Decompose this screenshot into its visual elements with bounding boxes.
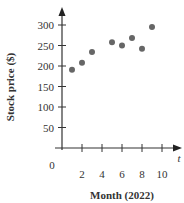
data-point xyxy=(149,24,155,30)
x-axis xyxy=(55,145,182,152)
y-tick-label: 100 xyxy=(38,101,55,113)
data-point xyxy=(79,60,85,66)
x-axis-arrow-icon xyxy=(173,145,182,152)
y-tick-label: 50 xyxy=(43,122,55,134)
x-tick-label: 2 xyxy=(79,168,85,180)
y-tick-label: 250 xyxy=(38,40,55,52)
x-tick-label: 8 xyxy=(139,168,145,180)
data-point xyxy=(89,49,95,55)
x-tick-label: 10 xyxy=(157,168,169,180)
y-axis-title: Stock price ($) xyxy=(4,52,17,121)
scatter-chart: 50100150200250300 246810 0 t Month (2022… xyxy=(0,0,184,203)
y-tick-label: 300 xyxy=(38,19,55,31)
data-point xyxy=(139,46,145,52)
origin-label: 0 xyxy=(49,159,55,171)
x-axis-variable-label: t xyxy=(177,152,181,164)
y-tick-label: 150 xyxy=(38,81,55,93)
x-ticks: 246810 xyxy=(79,144,168,180)
y-tick-label: 200 xyxy=(38,60,55,72)
data-point xyxy=(109,39,115,45)
data-point xyxy=(119,43,125,49)
x-tick-label: 6 xyxy=(119,168,125,180)
data-point xyxy=(129,35,135,41)
x-axis-title: Month (2022) xyxy=(90,189,154,202)
data-point xyxy=(69,67,75,73)
y-axis xyxy=(59,7,66,150)
x-tick-label: 4 xyxy=(99,168,105,180)
data-points xyxy=(69,24,155,73)
y-axis-arrow-icon xyxy=(59,7,66,16)
